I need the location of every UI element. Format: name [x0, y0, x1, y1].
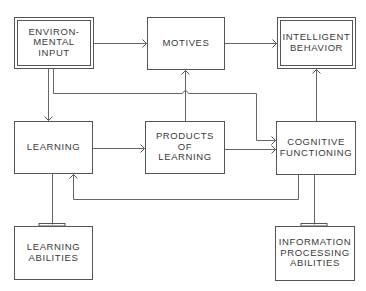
node-label-line: ABILITIES [29, 252, 79, 263]
node-label-line: LEARNING [158, 151, 211, 162]
edge-cognitive-functioning-to-learning [70, 175, 299, 200]
edge-motives-to-intelligent-behavior [225, 40, 277, 48]
node-cognitive-functioning: COGNITIVEFUNCTIONING [277, 122, 356, 175]
node-label-line: PRODUCTS [156, 130, 214, 141]
node-label-line: OF [178, 141, 192, 152]
edge-products-of-learning-to-cognitive-functioning [225, 146, 276, 154]
node-tab [39, 224, 65, 227]
node-label-line: INTELLIGENT [283, 31, 351, 42]
node-label-line: ABILITIES [290, 257, 340, 268]
node-intelligent-behavior: INTELLIGENTBEHAVIOR [278, 18, 356, 69]
node-learning: LEARNING [15, 122, 93, 174]
edge-products-of-learning-to-motives [182, 71, 190, 122]
nodes-layer: ENVIRON-MENTALINPUTMOTIVESINTELLIGENTBEH… [15, 18, 356, 281]
node-environmental-input: ENVIRON-MENTALINPUT [15, 18, 94, 69]
edge-cognitive-functioning-to-intelligent-behavior [313, 70, 321, 122]
edge-learning-to-products-of-learning [93, 145, 145, 153]
node-label-line: MENTAL [33, 36, 74, 47]
flow-diagram: ENVIRON-MENTALINPUTMOTIVESINTELLIGENTBEH… [0, 0, 366, 291]
node-label-line: FUNCTIONING [280, 147, 353, 158]
node-tab [301, 224, 327, 227]
node-learning-abilities: LEARNINGABILITIES [15, 224, 93, 280]
node-label-line: LEARNING [27, 241, 80, 252]
node-label-line: LEARNING [27, 141, 80, 152]
edge-environmental-input-to-motives [94, 40, 147, 48]
node-label-line: ENVIRON- [28, 26, 79, 37]
node-label-line: COGNITIVE [287, 136, 345, 147]
edge-environmental-input-to-learning [45, 69, 53, 121]
node-products-of-learning: PRODUCTSOFLEARNING [146, 122, 225, 174]
node-information-processing-abilities: INFORMATIONPROCESSINGABILITIES [276, 224, 355, 281]
node-label-line: MOTIVES [163, 37, 210, 48]
node-motives: MOTIVES [148, 18, 225, 70]
edge-line [74, 175, 299, 200]
node-label-line: INPUT [38, 47, 70, 58]
node-label-line: INFORMATION [279, 236, 351, 247]
node-label-line: BEHAVIOR [290, 42, 343, 53]
node-label-line: PROCESSING [280, 247, 349, 258]
